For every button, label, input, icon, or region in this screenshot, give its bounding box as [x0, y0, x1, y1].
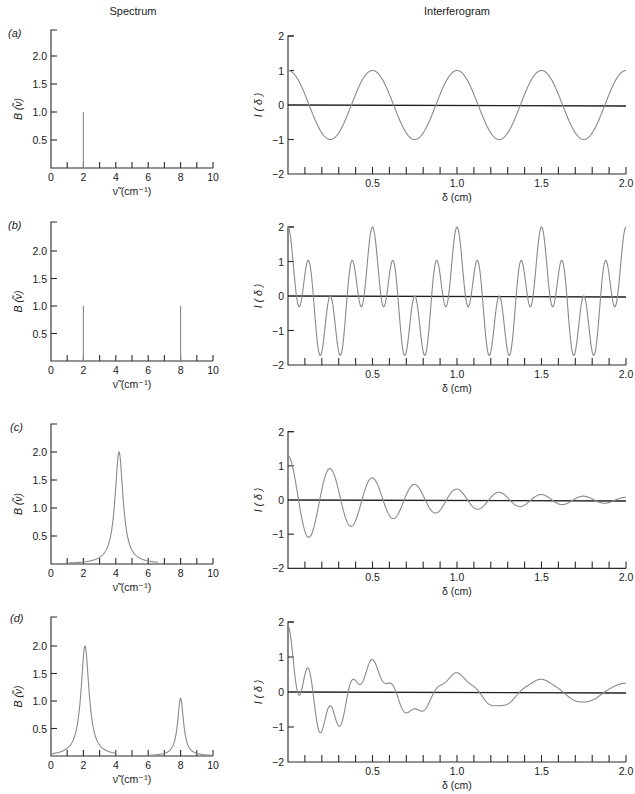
- plots-container: 02468100.51.01.52.0ν̃ (cm⁻¹)B (ν̃)0.51.0…: [12, 30, 633, 791]
- y-tick-label: 1: [278, 65, 284, 77]
- zero-line: [288, 105, 626, 106]
- x-tick-label: 0.5: [365, 368, 380, 380]
- interferogram-plot-b: 0.51.01.52.0210−1−2δ (cm)I ( δ ): [252, 221, 633, 394]
- y-tick-label: 1.5: [32, 474, 47, 486]
- x-tick-label: 4: [113, 171, 119, 183]
- x-tick-label: 6: [145, 759, 151, 771]
- spectral-peak: [148, 698, 213, 755]
- spectrum-axes: [51, 222, 213, 361]
- x-axis-title: ν̃ (cm⁻¹): [113, 773, 152, 785]
- y-tick-label: 1.0: [32, 695, 47, 707]
- x-tick-label: 0.5: [365, 177, 380, 189]
- x-tick-label: 2: [80, 171, 86, 183]
- y-tick-label: 2.0: [32, 245, 47, 257]
- y-tick-label: 2: [278, 426, 284, 438]
- y-axis-title: I ( δ ): [252, 488, 264, 513]
- interferogram-plot-d: 0.51.01.52.0210−1−2δ (cm)I ( δ ): [252, 616, 633, 791]
- x-tick-label: 1.0: [450, 765, 465, 777]
- x-tick-label: 10: [207, 171, 219, 183]
- x-axis-title: δ (cm): [442, 585, 472, 597]
- x-tick-label: 1.5: [534, 571, 549, 583]
- figure: Spectrum Interferogram (a) (b) (c) (d) 0…: [0, 0, 635, 794]
- x-tick-label: 1.5: [534, 368, 549, 380]
- x-tick-label: 4: [113, 759, 119, 771]
- x-tick-label: 4: [113, 567, 119, 579]
- spectrum-plot-c: 02468100.51.01.52.0ν̃ (cm⁻¹)B (ν̃): [12, 424, 219, 593]
- x-tick-label: 1.5: [534, 765, 549, 777]
- y-axis-title: B (ν̃): [12, 685, 24, 707]
- x-tick-label: 1.0: [450, 571, 465, 583]
- x-tick-label: 8: [178, 364, 184, 376]
- y-tick-label: 0: [278, 99, 284, 111]
- x-tick-label: 1.0: [450, 177, 465, 189]
- y-tick-label: 2.0: [32, 446, 47, 458]
- x-tick-label: 1.5: [534, 177, 549, 189]
- x-axis-title: ν̃ (cm⁻¹): [113, 185, 152, 197]
- interferogram-curve: [288, 456, 626, 538]
- x-tick-label: 2: [80, 364, 86, 376]
- interferogram-curve: [288, 626, 626, 733]
- x-axis-title: ν̃ (cm⁻¹): [113, 581, 152, 593]
- y-tick-label: −2: [272, 359, 284, 371]
- spectrum-plot-a: 02468100.51.01.52.0ν̃ (cm⁻¹)B (ν̃): [12, 30, 219, 197]
- y-axis-title: B (ν̃): [12, 98, 24, 120]
- spectrum-axes: [51, 30, 213, 168]
- panel-label-a: (a): [8, 27, 22, 39]
- y-tick-label: 0: [278, 290, 284, 302]
- y-tick-label: −2: [272, 756, 284, 768]
- spectrum-axes: [51, 424, 213, 564]
- y-tick-label: 0.5: [32, 723, 47, 735]
- x-tick-label: 8: [178, 759, 184, 771]
- zero-line: [288, 296, 626, 297]
- x-tick-label: 2: [80, 567, 86, 579]
- x-tick-label: 6: [145, 364, 151, 376]
- x-tick-label: 0: [48, 567, 54, 579]
- x-tick-label: 10: [207, 567, 219, 579]
- spectral-peak: [51, 646, 116, 754]
- interferogram-column-header: Interferogram: [424, 5, 490, 17]
- y-tick-label: −2: [272, 168, 284, 180]
- y-tick-label: 1.5: [32, 78, 47, 90]
- x-axis-title: δ (cm): [442, 779, 472, 791]
- x-tick-label: 10: [207, 364, 219, 376]
- y-tick-label: 2.0: [32, 50, 47, 62]
- y-tick-label: 1.0: [32, 106, 47, 118]
- interferogram-plot-a: 0.51.01.52.0210−1−2δ (cm)I ( δ ): [252, 30, 633, 203]
- x-tick-label: 4: [113, 364, 119, 376]
- y-tick-label: 1: [278, 460, 284, 472]
- y-tick-label: −1: [272, 528, 284, 540]
- y-tick-label: 0: [278, 686, 284, 698]
- panel-label-b: (b): [8, 219, 22, 231]
- y-tick-label: 1.5: [32, 273, 47, 285]
- x-tick-label: 2.0: [619, 177, 634, 189]
- y-axis-title: B (ν̃): [12, 290, 24, 312]
- x-axis-title: ν̃ (cm⁻¹): [113, 378, 152, 390]
- x-tick-label: 8: [178, 567, 184, 579]
- x-tick-label: 0.5: [365, 765, 380, 777]
- panel-label-c: (c): [10, 421, 23, 433]
- y-tick-label: −1: [272, 325, 284, 337]
- x-tick-label: 0: [48, 759, 54, 771]
- y-tick-label: 2.0: [32, 640, 47, 652]
- y-tick-label: 2: [278, 616, 284, 628]
- x-tick-label: 1.0: [450, 368, 465, 380]
- y-tick-label: 2: [278, 30, 284, 42]
- x-axis-title: δ (cm): [442, 191, 472, 203]
- y-tick-label: −1: [272, 721, 284, 733]
- x-tick-label: 0.5: [365, 571, 380, 583]
- y-tick-label: 0: [278, 494, 284, 506]
- y-axis-title: B (ν̃): [12, 493, 24, 515]
- y-tick-label: 2: [278, 221, 284, 233]
- y-tick-label: 1: [278, 256, 284, 268]
- x-tick-label: 2.0: [619, 765, 634, 777]
- y-tick-label: 1.0: [32, 502, 47, 514]
- y-tick-label: 0.5: [32, 530, 47, 542]
- zero-line: [288, 692, 626, 693]
- y-tick-label: 1: [278, 651, 284, 663]
- x-tick-label: 10: [207, 759, 219, 771]
- y-tick-label: −1: [272, 134, 284, 146]
- y-tick-label: 0.5: [32, 134, 47, 146]
- y-tick-label: 1.0: [32, 300, 47, 312]
- zero-line: [288, 500, 626, 501]
- x-axis-title: δ (cm): [442, 382, 472, 394]
